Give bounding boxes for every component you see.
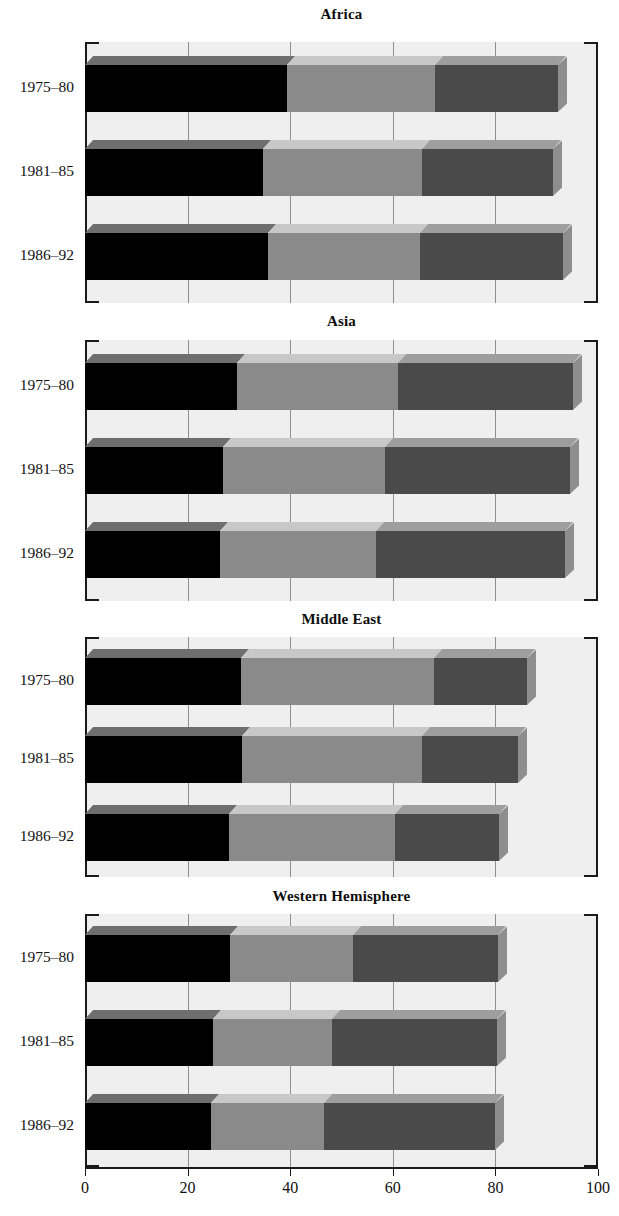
bar-segment-top-2	[287, 56, 443, 65]
bar-segment-3	[434, 658, 527, 705]
bar-segment-side	[565, 523, 574, 578]
bar-segment-side	[570, 439, 579, 494]
bar-segment-2	[213, 1019, 332, 1066]
bar-segment-3	[385, 447, 570, 494]
bar-segment-top-2	[223, 438, 393, 447]
bar-segment-top-3	[385, 438, 578, 447]
bar-segment-3	[398, 363, 573, 410]
bar-row	[0, 805, 619, 861]
x-axis-line	[85, 1167, 598, 1169]
bar-segment-top-2	[242, 727, 430, 736]
bar-segment-top-1	[85, 1094, 219, 1103]
bar-segment-2	[223, 447, 385, 494]
bar-segment-3	[324, 1103, 495, 1150]
bar-segment-3	[422, 149, 553, 196]
bar-segment-side	[527, 650, 536, 705]
panel-title-2: Asia	[85, 313, 598, 330]
bar-segment-2	[263, 149, 422, 196]
bar-segment-top-2	[268, 224, 428, 233]
bar-segment-1	[85, 233, 268, 280]
bar-segment-2	[242, 736, 422, 783]
bar-segment-top-3	[398, 354, 581, 363]
x-axis-tick-40	[290, 1169, 291, 1176]
bar-segment-side	[495, 1095, 504, 1150]
bar-row	[0, 354, 619, 410]
bar-segment-top-2	[220, 522, 384, 531]
bar-segment-top-1	[85, 438, 231, 447]
panel-title-4: Western Hemisphere	[85, 888, 598, 905]
bar-segment-side	[498, 927, 507, 982]
bar-segment-1	[85, 658, 241, 705]
bar-segment-top-3	[435, 56, 566, 65]
bar-segment-3	[376, 531, 565, 578]
bar-row	[0, 926, 619, 982]
bar-segment-2	[287, 65, 435, 112]
bar-segment-side	[558, 57, 567, 112]
bar-segment-top-3	[434, 649, 535, 658]
x-axis-tick-80	[495, 1169, 496, 1176]
bar-segment-top-3	[420, 224, 571, 233]
bar-segment-top-2	[237, 354, 406, 363]
bar-segment-top-2	[229, 805, 403, 814]
bar-segment-top-2	[230, 926, 361, 935]
bar-segment-3	[353, 935, 498, 982]
bar-segment-top-2	[213, 1010, 340, 1019]
bar-segment-2	[241, 658, 434, 705]
x-axis-tick-label-0: 0	[81, 1179, 89, 1197]
bar-segment-top-1	[85, 727, 250, 736]
bar-segment-top-1	[85, 649, 249, 658]
bar-row	[0, 140, 619, 196]
bar-segment-top-3	[395, 805, 507, 814]
x-axis-tick-label-80: 80	[487, 1179, 503, 1197]
bar-segment-top-3	[422, 140, 561, 149]
bar-segment-1	[85, 1019, 213, 1066]
bar-segment-2	[268, 233, 420, 280]
bar-segment-top-3	[376, 522, 573, 531]
bar-segment-2	[237, 363, 398, 410]
bar-row	[0, 727, 619, 783]
bar-segment-top-1	[85, 140, 271, 149]
bar-row	[0, 438, 619, 494]
bar-segment-1	[85, 531, 220, 578]
bar-row	[0, 1010, 619, 1066]
x-axis-tick-60	[393, 1169, 394, 1176]
bar-segment-top-2	[263, 140, 430, 149]
x-axis-tick-20	[188, 1169, 189, 1176]
bar-segment-top-1	[85, 354, 245, 363]
bar-segment-side	[553, 141, 562, 196]
bar-segment-top-1	[85, 926, 238, 935]
x-axis-tick-label-100: 100	[586, 1179, 610, 1197]
bar-segment-3	[420, 233, 563, 280]
bar-segment-2	[229, 814, 395, 861]
bar-segment-3	[332, 1019, 497, 1066]
bar-segment-2	[211, 1103, 324, 1150]
bar-segment-top-1	[85, 224, 276, 233]
bar-segment-side	[518, 728, 527, 783]
panel-title-3: Middle East	[85, 611, 598, 628]
bar-row	[0, 224, 619, 280]
bar-segment-3	[422, 736, 518, 783]
bar-segment-side	[563, 225, 572, 280]
x-axis-tick-0	[85, 1169, 86, 1176]
bar-segment-top-3	[422, 727, 526, 736]
bar-segment-top-1	[85, 805, 237, 814]
bar-segment-side	[573, 355, 582, 410]
x-axis-tick-100	[598, 1169, 599, 1176]
bar-segment-1	[85, 363, 237, 410]
x-axis-tick-label-60: 60	[385, 1179, 401, 1197]
bar-segment-1	[85, 935, 230, 982]
bar-segment-top-3	[332, 1010, 505, 1019]
bar-segment-3	[395, 814, 499, 861]
bar-row	[0, 56, 619, 112]
x-axis-tick-label-20: 20	[180, 1179, 196, 1197]
bar-segment-top-2	[211, 1094, 332, 1103]
bar-segment-top-3	[353, 926, 506, 935]
bar-segment-3	[435, 65, 558, 112]
bar-segment-top-1	[85, 1010, 221, 1019]
bar-segment-top-1	[85, 522, 228, 531]
bar-segment-1	[85, 814, 229, 861]
bar-segment-1	[85, 149, 263, 196]
bar-segment-top-1	[85, 56, 295, 65]
bar-segment-2	[230, 935, 353, 982]
bar-segment-side	[497, 1011, 506, 1066]
